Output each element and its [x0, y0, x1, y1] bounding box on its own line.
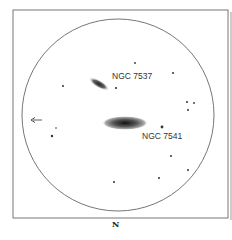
north-label: N: [112, 219, 119, 229]
galaxy-ngc7541: [102, 116, 148, 130]
frame: [13, 10, 228, 218]
label-ngc7537: NGC 7537: [112, 71, 152, 81]
galaxy-ngc7537: [87, 75, 112, 94]
field-sketch: NGC 7537 NGC 7541 N: [0, 0, 232, 240]
direction-arrow-icon: [31, 118, 42, 123]
eyepiece-field-circle: [22, 19, 214, 211]
label-ngc7541: NGC 7541: [142, 131, 182, 141]
